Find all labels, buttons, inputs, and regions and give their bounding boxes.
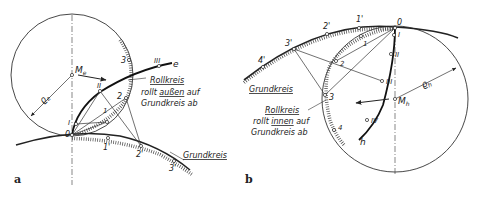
label-I-b: I <box>398 31 400 39</box>
label-I-a: I <box>68 119 70 127</box>
rollkreis-desc-a: rollt außen auf <box>141 88 201 97</box>
label-2-b: 2 <box>340 60 345 68</box>
grundkreis-label-a: Grundkreis <box>183 151 227 160</box>
panel-label-a: a <box>14 173 21 186</box>
label-3p-b: 3' <box>285 39 292 48</box>
label-IV-b: IV <box>371 117 379 125</box>
point-3-a <box>127 58 130 61</box>
panel-label-b: b <box>245 173 253 186</box>
rolling-hatch-a <box>78 40 131 134</box>
base-circle-b <box>244 26 458 80</box>
curve-label-a: e <box>173 59 179 69</box>
point-2-b <box>334 59 337 62</box>
leader-line <box>128 78 146 80</box>
label-III-b: III <box>386 78 392 86</box>
point-2p-a <box>139 144 142 147</box>
label-3-a: 3 <box>121 56 126 65</box>
label-4p-b: 4' <box>258 56 265 65</box>
point-4-b <box>332 128 335 131</box>
grundkreis-label-b: Grundkreis <box>249 85 293 94</box>
point-2-a <box>124 96 127 99</box>
point-2p-b <box>325 32 328 35</box>
center-label-a: Me <box>75 65 87 76</box>
point-I-b <box>392 33 395 36</box>
label-II-b: II <box>395 51 399 59</box>
point-IV-b <box>365 118 368 121</box>
label-1p-b: 1' <box>356 15 363 24</box>
curve-label-b: h <box>360 137 366 147</box>
point-3-b <box>323 93 326 96</box>
radius-label-b: ϱh <box>420 77 433 91</box>
point-II-b <box>389 52 392 55</box>
point-III-b <box>380 79 383 82</box>
point-1p-b <box>357 26 360 29</box>
label-1p-a: 1' <box>103 143 110 152</box>
label-2-a: 2 <box>117 92 122 101</box>
point-center-a <box>70 73 73 76</box>
rollkreis-title-b: Rollkreis <box>265 106 299 115</box>
point-I-a <box>74 122 77 125</box>
label-II-a: II <box>97 82 101 90</box>
construction-line <box>72 91 100 135</box>
point-3p-a <box>172 159 175 162</box>
rolling-hatch-b <box>326 28 393 146</box>
label-0-b: 0 <box>397 18 402 27</box>
point-center-b <box>393 97 396 100</box>
point-1-a <box>105 120 108 123</box>
leader-line <box>170 152 184 160</box>
panel-a: Me ϱe e 0 1 2 3 1' 2' 3' I II III Rollkr… <box>11 14 227 186</box>
rollkreis-desc2-b: Grundkreis ab <box>251 128 307 137</box>
label-III-a: III <box>154 57 160 65</box>
construction-line <box>294 49 325 95</box>
panel-b: Mh ϱh h 0 1 2 3 4 1' 2' 3' 4' I II III I… <box>244 15 468 186</box>
point-1p-a <box>106 136 109 139</box>
rollkreis-title-a: Rollkreis <box>150 76 184 85</box>
radius-label-a: ϱe <box>37 91 52 106</box>
center-label-b: Mh <box>398 96 410 107</box>
point-1-b <box>359 34 362 37</box>
point-3p-b <box>292 47 295 50</box>
rollkreis-desc2-a: Grundkreis ab <box>141 99 197 108</box>
radius-line-a <box>31 75 72 116</box>
rollkreis-desc-b: rollt innen auf <box>253 117 310 126</box>
label-1-a: 1 <box>103 107 107 115</box>
point-0-a <box>70 133 73 136</box>
point-4p-b <box>261 65 264 68</box>
label-2p-a: 2' <box>136 150 143 159</box>
label-2p-b: 2' <box>323 22 330 31</box>
label-3p-a: 3' <box>169 164 176 173</box>
label-0-a: 0 <box>65 130 70 139</box>
leader-line <box>308 100 326 110</box>
label-4-b: 4 <box>338 124 342 132</box>
label-1-b: 1 <box>363 40 367 48</box>
label-3-b: 3 <box>329 93 334 102</box>
